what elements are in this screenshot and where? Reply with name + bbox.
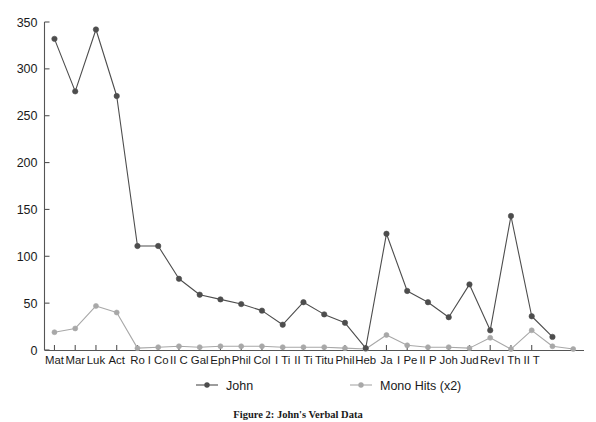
legend-swatch-marker (204, 382, 209, 387)
data-point (73, 89, 78, 94)
y-tick-label: 150 (17, 203, 38, 217)
data-point (259, 344, 264, 349)
y-tick-label: 100 (17, 250, 38, 264)
data-point (384, 231, 389, 236)
data-point (342, 346, 347, 351)
data-point (93, 303, 98, 308)
data-point (425, 345, 430, 350)
data-point (135, 346, 140, 351)
data-point (550, 344, 555, 349)
x-category-label: Mat (45, 354, 65, 366)
data-point (93, 27, 98, 32)
data-point (571, 347, 576, 352)
figure-container: 050100150200250300350 MatMarLukActRoI Co… (0, 0, 596, 422)
data-point (301, 345, 306, 350)
x-category-label: I Th (501, 354, 520, 366)
figure-caption: Figure 2: John's Verbal Data (233, 409, 363, 420)
data-point (135, 243, 140, 248)
data-point (508, 347, 513, 352)
data-point (529, 328, 534, 333)
data-point (467, 282, 472, 287)
x-category-label: Luk (87, 354, 106, 366)
x-category-label: II Ti (294, 354, 312, 366)
x-category-label: Jud (460, 354, 478, 366)
x-category-label: Rev (480, 354, 501, 366)
data-point (73, 326, 78, 331)
x-category-label: Phil (335, 354, 354, 366)
x-category-label: I Pe (397, 354, 417, 366)
y-tick-label: 0 (31, 344, 38, 358)
x-category-label: Joh (440, 354, 458, 366)
x-category-label: Col (253, 354, 270, 366)
data-point (239, 301, 244, 306)
data-point (156, 345, 161, 350)
data-point (176, 276, 181, 281)
data-point (488, 328, 493, 333)
x-category-label: II P (419, 354, 436, 366)
legend-swatch-marker (358, 382, 363, 387)
y-tick-label: 250 (17, 109, 38, 123)
legend-label: Mono Hits (x2) (380, 379, 461, 393)
x-category-label: I Co (148, 354, 169, 366)
data-point (529, 314, 534, 319)
data-point (218, 297, 223, 302)
x-category-label: I Ti (275, 354, 290, 366)
data-point (259, 308, 264, 313)
data-point (363, 345, 368, 350)
data-point (301, 300, 306, 305)
y-tick-label: 300 (17, 62, 38, 76)
data-point (425, 300, 430, 305)
data-point (114, 310, 119, 315)
data-point (114, 93, 119, 98)
x-category-label: Ro (130, 354, 145, 366)
x-category-label: Eph (210, 354, 230, 366)
legend-label: John (226, 379, 253, 393)
data-point (52, 330, 57, 335)
data-point (239, 344, 244, 349)
x-category-label: II T (524, 354, 540, 366)
line-chart: 050100150200250300350 MatMarLukActRoI Co… (0, 0, 596, 422)
data-point (405, 343, 410, 348)
x-category-label: Mar (65, 354, 85, 366)
data-point (280, 322, 285, 327)
data-point (197, 345, 202, 350)
x-category-label: Heb (355, 354, 376, 366)
caption-label: Figure 2: John's Verbal Data (233, 409, 363, 420)
x-category-label: II C (170, 354, 188, 366)
data-point (467, 346, 472, 351)
data-point (280, 345, 285, 350)
x-category-label: Titu (315, 354, 334, 366)
data-point (446, 345, 451, 350)
data-point (322, 312, 327, 317)
data-point (197, 292, 202, 297)
data-point (218, 344, 223, 349)
data-point (342, 320, 347, 325)
data-point (322, 345, 327, 350)
data-point (52, 36, 57, 41)
data-point (156, 243, 161, 248)
y-tick-label: 200 (17, 156, 38, 170)
data-point (384, 333, 389, 338)
data-point (176, 344, 181, 349)
data-point (446, 315, 451, 320)
x-category-label: Ja (380, 354, 393, 366)
data-point (550, 334, 555, 339)
x-category-label: Act (108, 354, 125, 366)
x-category-label: Phil (232, 354, 251, 366)
data-point (405, 288, 410, 293)
data-point (508, 213, 513, 218)
x-category-label: Gal (191, 354, 209, 366)
y-tick-label: 350 (17, 16, 38, 30)
data-point (488, 335, 493, 340)
y-tick-label: 50 (24, 297, 38, 311)
